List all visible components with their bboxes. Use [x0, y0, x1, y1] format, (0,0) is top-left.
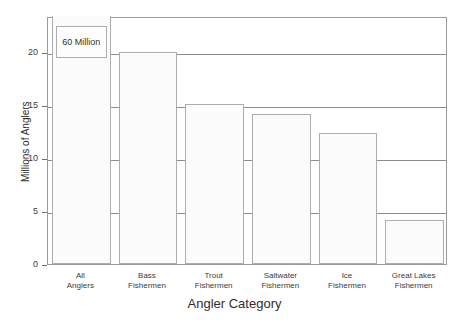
y-tick-label: 5: [0, 207, 38, 216]
y-axis-title: Millions of Anglers: [20, 101, 31, 182]
bar: [252, 114, 311, 264]
x-axis-category-label-line2: Fishermen: [374, 281, 453, 291]
y-tick-label: 10: [0, 154, 38, 163]
truncated-bar-callout: 60 Million: [56, 26, 107, 58]
bar: [385, 220, 444, 265]
y-tick-label: 15: [0, 101, 38, 110]
y-tick-label: 20: [0, 48, 38, 57]
bar: [119, 52, 178, 264]
truncated-bar-value-label: 60 Million: [62, 37, 100, 47]
bar: [185, 104, 244, 264]
y-tick-label: 0: [0, 260, 38, 269]
y-tick-mark: [42, 265, 47, 266]
bar: [319, 133, 378, 264]
plot-area: [47, 17, 447, 265]
bar-chart: Millions of Anglers 05101520 60 Million …: [0, 0, 469, 325]
x-axis-category-label: Great LakesFishermen: [374, 271, 453, 291]
x-axis-category-label-line1: Great Lakes: [374, 271, 453, 281]
x-axis-title: Angler Category: [0, 296, 469, 311]
